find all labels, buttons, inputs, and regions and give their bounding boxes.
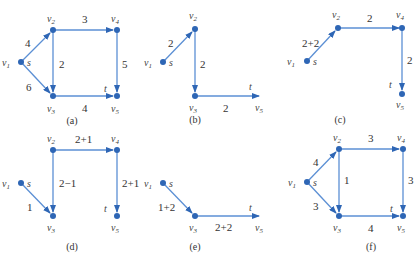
- node-label-v4: v4: [396, 9, 404, 22]
- edge-label: 2: [407, 54, 413, 66]
- node-v1: [18, 59, 24, 65]
- node-v2: [50, 147, 56, 153]
- node-v2: [336, 146, 342, 152]
- edge-label: 1+2: [158, 201, 175, 213]
- node-label-v1: v1: [144, 57, 152, 70]
- node-v1: [18, 180, 24, 186]
- panel-caption: (e): [189, 241, 200, 253]
- node-label-v1: v1: [2, 57, 10, 70]
- sink-label: t: [389, 79, 392, 90]
- node-label-v5: v5: [111, 103, 119, 116]
- sink-label: t: [104, 203, 107, 214]
- node-label-v3: v3: [189, 222, 197, 235]
- edge-label: 4: [313, 156, 319, 168]
- node-label-v5: v5: [111, 222, 119, 235]
- node-label-v2: v2: [47, 13, 55, 26]
- node-v1: [160, 59, 166, 65]
- node-label-v3: v3: [47, 222, 55, 235]
- node-v4: [400, 146, 406, 152]
- panel-caption: (f): [366, 241, 376, 253]
- source-label: s: [313, 177, 317, 188]
- panel-caption: (c): [334, 114, 345, 126]
- node-label-v1: v1: [287, 56, 295, 69]
- edge-label: 2+2: [215, 221, 232, 233]
- edge-label: 2−1: [59, 177, 76, 189]
- node-v1: [304, 58, 310, 64]
- panel-caption: (b): [189, 114, 201, 126]
- edge-label: 5: [122, 58, 128, 70]
- node-label-v1: v1: [2, 178, 10, 191]
- edge-label: 2: [168, 37, 174, 49]
- edge-label: 2: [367, 12, 373, 24]
- node-label-v4: v4: [397, 132, 405, 145]
- panel-caption: (d): [66, 241, 78, 253]
- edge-label: 2+1: [75, 133, 92, 145]
- panel-b: v1 v2 v3 v5 s t 2 2 2 (b): [144, 10, 263, 126]
- edge-label: 4: [25, 37, 31, 49]
- edge-label: 2: [200, 58, 206, 70]
- node-label-v4: v4: [111, 13, 119, 26]
- panel-caption: (a): [66, 115, 77, 127]
- node-v5: [114, 93, 120, 99]
- node-label-v2: v2: [47, 133, 55, 146]
- edge-label: 6: [26, 81, 32, 93]
- node-label-v5: v5: [255, 102, 263, 115]
- node-v4: [399, 25, 405, 31]
- panel-e: v1 v3 v5 s t 1+2 2+2 (e): [144, 178, 263, 253]
- edge-v1-v3: [21, 183, 50, 213]
- node-v4: [114, 27, 120, 33]
- node-v5: [114, 213, 120, 219]
- node-v3: [336, 213, 342, 219]
- node-v2: [192, 26, 198, 32]
- sink-label: t: [104, 83, 107, 94]
- edge-label: 3: [313, 200, 319, 212]
- edge-label: 4: [368, 222, 374, 234]
- node-label-v4: v4: [111, 133, 119, 146]
- edge-label: 3: [408, 174, 414, 186]
- edge-label: 2: [59, 58, 65, 70]
- panel-f: v1 v2 v4 v3 v5 s t 4 3 3 1 3 4 (f): [288, 132, 414, 253]
- node-label-v2: v2: [333, 132, 341, 145]
- node-v1: [160, 180, 166, 186]
- source-label: s: [169, 57, 173, 68]
- node-v2: [335, 25, 341, 31]
- sink-label: t: [390, 203, 393, 214]
- edge-label: 2+1: [122, 177, 139, 189]
- node-v3: [192, 213, 198, 219]
- source-label: s: [169, 178, 173, 189]
- node-label-v3: v3: [333, 222, 341, 235]
- source-label: s: [313, 56, 317, 67]
- node-label-v3: v3: [47, 103, 55, 116]
- edge-label: 3: [82, 13, 88, 25]
- node-v2: [50, 27, 56, 33]
- edge-v1-v2: [307, 152, 336, 182]
- node-label-v1: v1: [288, 177, 296, 190]
- node-v3: [50, 93, 56, 99]
- source-label: s: [27, 57, 31, 68]
- node-label-v2: v2: [189, 10, 197, 23]
- node-v5: [399, 91, 405, 97]
- edge-label: 2: [223, 102, 229, 114]
- edge-label: 4: [82, 102, 88, 114]
- edge-label: 3: [368, 132, 374, 144]
- flow-network-figure: v1 v2 v4 v3 v5 s t 4 6 3 2 5 4 (a) v1 v2…: [0, 0, 416, 260]
- panel-a: v1 v2 v4 v3 v5 s t 4 6 3 2 5 4 (a): [2, 13, 128, 127]
- edge-label: 1: [344, 174, 350, 186]
- node-label-v1: v1: [144, 178, 152, 191]
- sink-label: t: [249, 81, 252, 92]
- edge-label: 2+2: [302, 37, 319, 49]
- node-label-v2: v2: [332, 9, 340, 22]
- edge-v1-v3: [307, 182, 336, 213]
- node-v5: [400, 213, 406, 219]
- node-label-v5: v5: [396, 99, 404, 112]
- panel-c: v1 v2 v4 v5 s t 2+2 2 2 (c): [287, 9, 413, 126]
- node-v4: [114, 147, 120, 153]
- node-v3: [192, 93, 198, 99]
- source-label: s: [27, 178, 31, 189]
- edge-label: 1: [27, 201, 33, 213]
- node-v1: [304, 179, 310, 185]
- node-v3: [50, 213, 56, 219]
- node-label-v5: v5: [255, 222, 263, 235]
- panel-d: v1 v2 v4 v3 v5 s t 1 2+1 2−1 2+1 (d): [2, 133, 139, 253]
- node-label-v5: v5: [397, 222, 405, 235]
